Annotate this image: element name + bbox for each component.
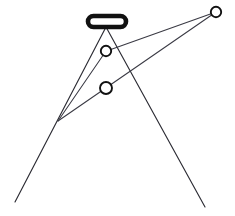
lower-node bbox=[100, 82, 112, 94]
lens-bar-group bbox=[88, 16, 126, 27]
ray-group bbox=[15, 12, 216, 207]
upper-node bbox=[101, 46, 111, 56]
diagram-canvas bbox=[0, 0, 235, 216]
ray-vertex-to-upper-node bbox=[58, 51, 106, 121]
lens-bar bbox=[88, 16, 126, 27]
ray-bar-to-lower-left bbox=[15, 27, 106, 202]
optics-ray-diagram bbox=[0, 0, 235, 216]
right-node bbox=[211, 7, 221, 17]
ray-vertex-to-right-node bbox=[58, 12, 216, 121]
